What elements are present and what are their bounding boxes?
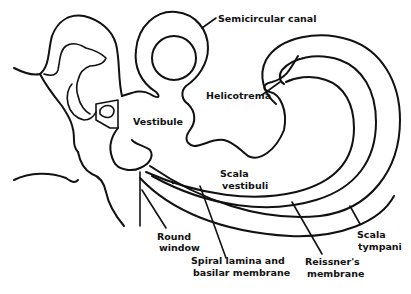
label-round-window-1: Round <box>157 231 191 242</box>
vestibule-left-lower <box>78 152 124 226</box>
ossicle-inner <box>67 84 96 120</box>
leader-reissners <box>292 202 322 254</box>
label-scala-tympani-1: Scala <box>357 229 386 240</box>
label-spiral-lamina-1: Spiral lamina and <box>191 255 285 266</box>
leader-scala-tympani <box>350 206 360 224</box>
label-scala-vestibuli-2: vestibuli <box>222 180 268 191</box>
semicircular-canal-inner <box>152 36 196 80</box>
label-reissners-2: membrane <box>307 268 364 279</box>
label-helicotrema: Helicotrema <box>206 90 271 101</box>
label-spiral-lamina-2: basilar membrane <box>193 267 290 278</box>
label-reissners-1: Reissner's <box>305 256 360 267</box>
vestibule-lower-outline <box>111 128 152 170</box>
label-round-window-2: window <box>159 242 200 253</box>
far-left-curve <box>14 174 78 182</box>
label-scala-vestibuli-1: Scala <box>220 168 249 179</box>
inner-ear-diagram: Semicircular canal Helicotrema Vestibule… <box>0 0 411 294</box>
label-vestibule: Vestibule <box>133 116 183 127</box>
leader-semicircular-canal <box>202 18 216 28</box>
dot-marker <box>172 182 174 184</box>
round-window-line-2 <box>142 190 166 228</box>
label-semicircular-canal: Semicircular canal <box>218 13 317 24</box>
label-scala-tympani-2: tympani <box>358 241 402 252</box>
middle-ear-outline <box>14 16 122 96</box>
leader-spiral-lamina <box>200 186 226 258</box>
stapes-inner <box>100 106 114 118</box>
cochlea-outer-wall <box>150 35 400 217</box>
